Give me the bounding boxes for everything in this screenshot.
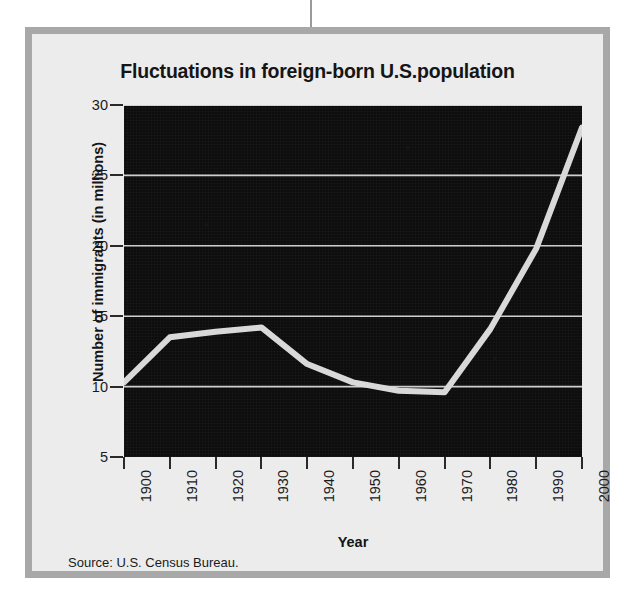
y-axis-tick-label: 10 <box>74 379 108 395</box>
y-axis-tick-mark <box>110 456 123 458</box>
x-axis-tick-label: 1970 <box>459 470 475 532</box>
x-axis-tick-label: 1900 <box>138 470 154 532</box>
y-axis-tick-mark <box>110 245 123 247</box>
x-axis-tick-mark <box>444 457 446 469</box>
x-axis-tick-label: 2000 <box>596 470 612 532</box>
y-axis-tick-label: 20 <box>74 238 108 254</box>
x-axis-tick-mark <box>123 457 125 469</box>
x-axis-tick-mark <box>398 457 400 469</box>
y-axis-tick-marks <box>110 105 124 457</box>
y-axis-tick-mark <box>110 104 123 106</box>
figure-panel: Fluctuations in foreign-born U.S.populat… <box>32 34 603 571</box>
x-axis-tick-mark <box>260 457 262 469</box>
figure-frame: Fluctuations in foreign-born U.S.populat… <box>25 27 610 578</box>
x-axis-tick-mark <box>535 457 537 469</box>
y-axis-tick-label: 15 <box>74 308 108 324</box>
chart-title: Fluctuations in foreign-born U.S.populat… <box>32 60 603 83</box>
chart-line-plot <box>124 105 582 457</box>
x-axis-tick-label: 1940 <box>321 470 337 532</box>
x-axis-tick-mark <box>352 457 354 469</box>
x-axis-tick-mark <box>489 457 491 469</box>
x-axis-tick-mark <box>215 457 217 469</box>
y-axis-tick-mark <box>110 386 123 388</box>
x-axis-title: Year <box>124 534 582 550</box>
x-axis-tick-label: 1930 <box>275 470 291 532</box>
y-axis-tick-mark <box>110 315 123 317</box>
page-gutter-rule <box>310 0 312 30</box>
y-axis-tick-label: 5 <box>74 449 108 465</box>
y-axis-tick-mark <box>110 174 123 176</box>
x-axis-tick-label: 1910 <box>184 470 200 532</box>
x-axis-tick-mark <box>169 457 171 469</box>
x-axis-tick-label: 1980 <box>504 470 520 532</box>
x-axis-tick-label: 1950 <box>367 470 383 532</box>
y-axis-tick-label: 30 <box>74 97 108 113</box>
y-axis-tick-label: 25 <box>74 167 108 183</box>
x-axis-tick-marks <box>124 457 582 470</box>
x-axis-tick-label: 1990 <box>550 470 566 532</box>
y-axis-tick-labels: 51015202530 <box>74 105 108 457</box>
x-axis-tick-mark <box>581 457 583 469</box>
source-note: Source: U.S. Census Bureau. <box>68 555 239 570</box>
x-axis-tick-labels: 1900191019201930194019501960197019801990… <box>124 470 582 532</box>
x-axis-tick-label: 1920 <box>230 470 246 532</box>
gridlines <box>124 105 582 387</box>
x-axis-tick-mark <box>306 457 308 469</box>
data-series-line <box>124 128 582 393</box>
x-axis-tick-label: 1960 <box>413 470 429 532</box>
plot-area <box>124 105 582 457</box>
